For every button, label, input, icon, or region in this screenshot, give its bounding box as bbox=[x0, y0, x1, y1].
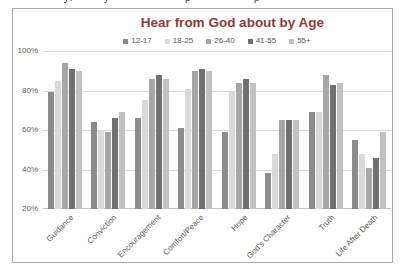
legend-item-18-25[interactable]: 18-25 bbox=[165, 37, 193, 45]
x-axis-label-Truth: Truth bbox=[317, 213, 336, 232]
bar-26-40-Encouragement[interactable] bbox=[149, 79, 155, 209]
bar-26-40-Conviction[interactable] bbox=[105, 132, 111, 209]
chart-container[interactable]: Hear from God about by Age 12-1718-2526-… bbox=[12, 8, 393, 263]
x-axis-label-Conviction: Conviction bbox=[86, 213, 119, 246]
bar-groups bbox=[43, 51, 391, 209]
bar-18-25-Hope[interactable] bbox=[229, 92, 235, 209]
bar-55+-God's Character[interactable] bbox=[293, 120, 299, 209]
bar-group-Truth bbox=[304, 51, 348, 209]
cropped-fragment: p bbox=[254, 0, 260, 3]
bar-55+-Encouragement[interactable] bbox=[163, 79, 169, 209]
bar-18-25-Encouragement[interactable] bbox=[142, 100, 148, 209]
bar-18-25-Comfort/Peace[interactable] bbox=[185, 89, 191, 209]
bar-group-Hope bbox=[217, 51, 261, 209]
y-axis-tick: 20% bbox=[0, 205, 38, 213]
chart-title: Hear from God about by Age bbox=[73, 15, 392, 33]
bar-26-40-Life After Death[interactable] bbox=[366, 168, 372, 209]
bar-26-40-God's Character[interactable] bbox=[279, 120, 285, 209]
cropped-fragment: p bbox=[185, 0, 191, 3]
x-axis-label-Comfort/Peace: Comfort/Peace bbox=[161, 213, 205, 257]
legend-item-12-17[interactable]: 12-17 bbox=[123, 37, 151, 45]
bar-26-40-Hope[interactable] bbox=[236, 83, 242, 209]
legend-swatch-icon bbox=[165, 39, 170, 44]
legend-swatch-icon bbox=[289, 39, 294, 44]
legend-swatch-icon bbox=[206, 39, 211, 44]
bar-55+-Truth[interactable] bbox=[337, 83, 343, 209]
y-axis-tick: 60% bbox=[0, 126, 38, 134]
bar-12-17-God's Character[interactable] bbox=[265, 173, 271, 209]
bar-41-55-Life After Death[interactable] bbox=[373, 158, 379, 209]
cropped-fragment: y bbox=[104, 0, 109, 3]
bar-12-17-Guidance[interactable] bbox=[48, 92, 54, 209]
x-axis-label-Life After Death: Life After Death bbox=[334, 213, 379, 258]
legend-label: 41-55 bbox=[256, 37, 276, 45]
bar-18-25-Guidance[interactable] bbox=[55, 81, 61, 209]
legend-label: 18-25 bbox=[173, 37, 193, 45]
bar-26-40-Guidance[interactable] bbox=[62, 63, 68, 209]
bar-18-25-Conviction[interactable] bbox=[98, 130, 104, 209]
bar-12-17-Encouragement[interactable] bbox=[135, 118, 141, 209]
cropped-fragment: l bbox=[70, 0, 72, 3]
x-axis-labels: GuidanceConvictionEncouragementComfort/P… bbox=[43, 213, 391, 259]
bar-12-17-Life After Death[interactable] bbox=[352, 140, 358, 209]
bar-group-God's Character bbox=[261, 51, 305, 209]
bar-group-Conviction bbox=[87, 51, 131, 209]
legend-swatch-icon bbox=[123, 39, 128, 44]
bar-18-25-Life After Death[interactable] bbox=[359, 154, 365, 209]
bar-26-40-Comfort/Peace[interactable] bbox=[192, 71, 198, 209]
y-axis-tick: 80% bbox=[0, 87, 38, 95]
legend-label: 12-17 bbox=[131, 37, 151, 45]
legend-item-55+[interactable]: 55+ bbox=[289, 37, 311, 45]
bar-12-17-Comfort/Peace[interactable] bbox=[178, 128, 184, 209]
plot-area[interactable]: 100%80%60%40%20% bbox=[43, 51, 391, 209]
bar-41-55-Comfort/Peace[interactable] bbox=[199, 69, 205, 209]
legend-item-26-40[interactable]: 26-40 bbox=[206, 37, 234, 45]
bar-group-Life After Death bbox=[348, 51, 392, 209]
legend-swatch-icon bbox=[248, 39, 253, 44]
bar-41-55-Hope[interactable] bbox=[243, 79, 249, 209]
bar-55+-Conviction[interactable] bbox=[119, 112, 125, 209]
bar-12-17-Hope[interactable] bbox=[222, 132, 228, 209]
bar-55+-Comfort/Peace[interactable] bbox=[206, 71, 212, 209]
x-axis-label-Hope: Hope bbox=[229, 213, 249, 233]
bar-55+-Guidance[interactable] bbox=[76, 71, 82, 209]
bar-12-17-Truth[interactable] bbox=[309, 112, 315, 209]
bar-55+-Hope[interactable] bbox=[250, 83, 256, 209]
bar-41-55-Truth[interactable] bbox=[330, 85, 336, 209]
bar-group-Guidance bbox=[43, 51, 87, 209]
legend-item-41-55[interactable]: 41-55 bbox=[248, 37, 276, 45]
cropped-fragment: y bbox=[64, 0, 69, 3]
legend-label: 26-40 bbox=[214, 37, 234, 45]
bar-41-55-God's Character[interactable] bbox=[286, 120, 292, 209]
bar-12-17-Conviction[interactable] bbox=[91, 122, 97, 209]
legend-label: 55+ bbox=[297, 37, 311, 45]
bar-41-55-Guidance[interactable] bbox=[69, 69, 75, 209]
bar-41-55-Conviction[interactable] bbox=[112, 118, 118, 209]
bar-55+-Life After Death[interactable] bbox=[380, 132, 386, 209]
bar-group-Comfort/Peace bbox=[174, 51, 218, 209]
bar-group-Encouragement bbox=[130, 51, 174, 209]
bar-18-25-God's Character[interactable] bbox=[272, 154, 278, 209]
chart-legend: 12-1718-2526-4041-5555+ bbox=[43, 35, 391, 47]
cropped-text-fragments: ylypp bbox=[0, 0, 405, 5]
bar-26-40-Truth[interactable] bbox=[323, 75, 329, 209]
bar-18-25-Truth[interactable] bbox=[316, 112, 322, 209]
bar-41-55-Encouragement[interactable] bbox=[156, 75, 162, 209]
x-axis-label-Encouragement: Encouragement bbox=[116, 213, 162, 259]
y-axis-tick: 40% bbox=[0, 166, 38, 174]
y-axis-tick: 100% bbox=[0, 47, 38, 55]
x-axis-label-God's Character: God's Character bbox=[245, 213, 292, 260]
x-axis-label-Guidance: Guidance bbox=[45, 213, 76, 244]
